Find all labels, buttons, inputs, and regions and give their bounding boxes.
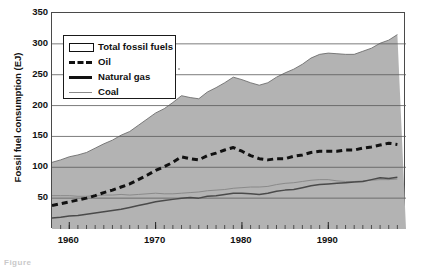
x-tick-label: 1960 xyxy=(58,234,79,245)
thin-line-icon xyxy=(68,86,94,98)
y-axis-tick-labels: 50100150200250300350 xyxy=(14,12,48,228)
y-tick-label: 150 xyxy=(18,129,48,140)
dashed-line-icon-glyph xyxy=(69,61,92,64)
legend-item-label: Total fossil fuels xyxy=(98,41,173,52)
legend-item: Total fossil fuels xyxy=(68,39,171,54)
legend-item: Coal xyxy=(68,84,171,99)
y-tick-label: 350 xyxy=(18,6,48,17)
area-swatch-icon-glyph xyxy=(69,43,94,52)
area-swatch-icon xyxy=(68,41,94,53)
scan-speck xyxy=(178,68,180,70)
legend-item: Natural gas xyxy=(68,69,171,84)
legend-item-label: Natural gas xyxy=(98,71,150,82)
legend-item: Oil xyxy=(68,54,171,69)
y-tick-label: 300 xyxy=(18,37,48,48)
figure-caption-remnant: Figure xyxy=(4,258,31,267)
y-tick-label: 200 xyxy=(18,99,48,110)
legend-item-label: Oil xyxy=(98,56,111,67)
y-tick-label: 100 xyxy=(18,160,48,171)
y-tick-label: 250 xyxy=(18,68,48,79)
x-tick-label: 1980 xyxy=(230,234,251,245)
chart-legend: Total fossil fuelsOilNatural gasCoal xyxy=(63,35,176,99)
figure-container: Fossil fuel consumption (EJ) 50100150200… xyxy=(0,0,424,270)
solid-thick-line-icon xyxy=(68,71,94,83)
solid-thick-line-icon-glyph xyxy=(69,76,92,79)
x-axis-tick-labels: 1960197019801990 xyxy=(51,230,405,250)
y-tick-label: 50 xyxy=(18,191,48,202)
legend-item-label: Coal xyxy=(98,86,119,97)
x-tick-label: 1990 xyxy=(317,234,338,245)
x-tick-label: 1970 xyxy=(144,234,165,245)
dashed-line-icon xyxy=(68,56,94,68)
thin-line-icon-glyph xyxy=(69,92,92,93)
